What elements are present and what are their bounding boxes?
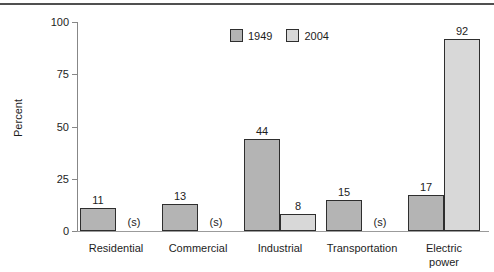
value-label-1949-electric-power: 17 xyxy=(408,181,444,193)
suppressed-label-2004-commercial: (s) xyxy=(198,216,234,228)
bar-1949-commercial xyxy=(162,204,198,231)
bar-2004-electric-power xyxy=(444,39,480,231)
y-tick-label-75: 75 xyxy=(45,68,69,80)
bar-1949-electric-power xyxy=(408,195,444,231)
value-label-1949-residential: 11 xyxy=(80,194,116,206)
value-label-2004-industrial: 8 xyxy=(280,200,316,212)
y-tick-0 xyxy=(72,231,77,232)
y-tick-label-25: 25 xyxy=(45,173,69,185)
y-tick-25 xyxy=(72,179,77,180)
legend-swatch-2004 xyxy=(286,29,299,42)
legend-swatch-1949 xyxy=(230,29,243,42)
y-tick-75 xyxy=(72,74,77,75)
y-axis-line xyxy=(77,22,78,231)
bar-1949-transportation xyxy=(326,200,362,231)
y-tick-100 xyxy=(72,22,77,23)
y-tick-50 xyxy=(72,127,77,128)
y-tick-label-50: 50 xyxy=(45,121,69,133)
value-label-2004-electric-power: 92 xyxy=(444,25,480,37)
x-label-electric-power: Electric power xyxy=(394,242,494,270)
legend: 1949 2004 xyxy=(230,29,329,42)
value-label-1949-transportation: 15 xyxy=(326,186,362,198)
value-label-1949-industrial: 44 xyxy=(244,125,280,137)
bar-1949-residential xyxy=(80,208,116,231)
legend-label-1949: 1949 xyxy=(248,30,272,42)
legend-label-2004: 2004 xyxy=(304,30,328,42)
value-label-1949-commercial: 13 xyxy=(162,190,198,202)
suppressed-label-2004-transportation: (s) xyxy=(362,216,398,228)
bar-2004-industrial xyxy=(280,214,316,231)
y-tick-label-0: 0 xyxy=(45,225,69,237)
chart-figure: Percent 025507510011(s)Residential13(s)C… xyxy=(0,0,494,272)
bar-1949-industrial xyxy=(244,139,280,231)
legend-item-2004: 2004 xyxy=(286,29,328,42)
legend-item-1949: 1949 xyxy=(230,29,272,42)
x-axis-line xyxy=(77,231,489,232)
suppressed-label-2004-residential: (s) xyxy=(116,216,152,228)
y-tick-label-100: 100 xyxy=(45,16,69,28)
